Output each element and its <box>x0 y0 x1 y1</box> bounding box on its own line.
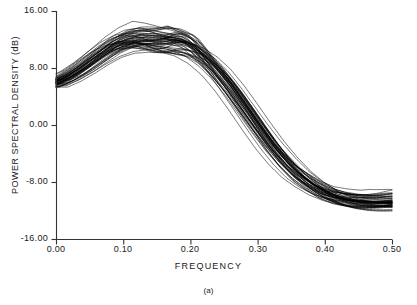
psd-plot <box>0 0 417 305</box>
spectral-estimate-curve <box>56 33 392 198</box>
spectral-estimate-curve <box>56 42 392 200</box>
y-tick-label: 16.00 <box>4 5 48 15</box>
y-tick-label: -8.00 <box>4 176 48 186</box>
spectral-estimate-curve <box>56 45 392 208</box>
y-tick-label: 0.00 <box>4 119 48 129</box>
x-axis-title: FREQUENCY <box>0 261 417 271</box>
spectral-estimate-curve <box>56 40 392 207</box>
spectral-estimate-curve <box>56 38 392 203</box>
x-tick-label: 0.20 <box>165 244 215 254</box>
spectral-estimate-curve <box>56 44 392 204</box>
y-tick-label: -16.00 <box>4 233 48 243</box>
spectral-estimate-curve <box>56 43 392 202</box>
x-tick-label: 0.40 <box>300 244 350 254</box>
spectral-estimate-curve <box>56 34 392 197</box>
spectral-estimate-curve <box>56 44 392 211</box>
y-tick-labels: 16.00 8.00 0.00 -8.00 -16.00 <box>4 0 48 250</box>
spectral-estimate-curve <box>56 37 392 199</box>
spectral-estimate-curve <box>56 31 392 203</box>
figure-panel: 16.00 8.00 0.00 -8.00 -16.00 POWER SPECT… <box>0 0 417 305</box>
x-tick-label: 0.50 <box>367 244 417 254</box>
y-tick-label: 8.00 <box>4 62 48 72</box>
x-tick-label: 0.30 <box>233 244 283 254</box>
spectral-estimate-curve <box>56 40 392 202</box>
figure-caption: (a) <box>0 286 417 295</box>
spectral-curve-bundle <box>56 21 392 211</box>
x-tick-label: 0.00 <box>31 244 81 254</box>
spectral-estimate-curve <box>56 42 392 203</box>
x-tick-label: 0.10 <box>98 244 148 254</box>
